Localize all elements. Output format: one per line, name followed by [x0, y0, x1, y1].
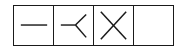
cell-crow-foot: many [54, 6, 94, 45]
symbol-grid: one many x [13, 5, 174, 46]
cross-icon [94, 6, 133, 45]
cell-label [134, 6, 135, 7]
cell-horizontal-line: one [14, 6, 54, 45]
horizontal-line-icon [14, 6, 53, 45]
cell-empty [134, 6, 173, 45]
crow-foot-icon [54, 6, 93, 45]
cell-cross: x [94, 6, 134, 45]
